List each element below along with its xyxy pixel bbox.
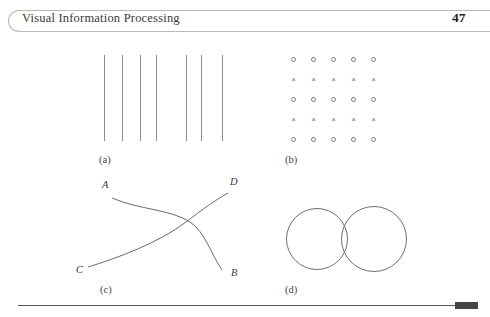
footer-block-marker xyxy=(455,302,478,309)
grid-circle xyxy=(351,137,356,142)
page-number: 47 xyxy=(452,10,466,26)
curve-endpoint-label-c: C xyxy=(76,264,83,275)
grid-circle xyxy=(291,57,296,62)
grid-cross: × xyxy=(290,116,297,123)
grid-circle xyxy=(311,57,316,62)
grid-cross: × xyxy=(370,116,377,123)
grid-circle xyxy=(371,97,376,102)
grid-circle xyxy=(331,97,336,102)
grid-circle xyxy=(331,137,336,142)
grid-circle xyxy=(311,97,316,102)
grid-cross: × xyxy=(330,116,337,123)
curve-endpoint-label-d: D xyxy=(230,176,238,187)
grid-cross: × xyxy=(310,76,317,83)
left-circle xyxy=(286,208,348,270)
vertical-line xyxy=(201,55,202,141)
vertical-line xyxy=(186,55,187,141)
panel-label-a: (a) xyxy=(99,154,111,165)
grid-circle xyxy=(351,57,356,62)
grid-cross: × xyxy=(350,116,357,123)
vertical-line xyxy=(140,55,141,141)
vertical-line xyxy=(122,55,123,141)
vertical-line xyxy=(156,55,157,141)
right-circle xyxy=(341,206,407,272)
footer-rule xyxy=(18,305,455,306)
page-title: Visual Information Processing xyxy=(22,11,180,26)
grid-cross: × xyxy=(350,76,357,83)
curve-endpoint-label-b: B xyxy=(231,267,237,278)
grid-circle xyxy=(291,97,296,102)
vertical-line xyxy=(104,55,105,141)
grid-circle xyxy=(331,57,336,62)
grid-cross: × xyxy=(370,76,377,83)
curve-c-to-d xyxy=(88,193,228,267)
grid-circle xyxy=(311,137,316,142)
panel-label-b: (b) xyxy=(285,154,297,165)
panel-c-crossing-curves xyxy=(0,36,490,294)
grid-cross: × xyxy=(330,76,337,83)
grid-circle xyxy=(371,57,376,62)
panel-label-c: (c) xyxy=(100,284,112,295)
panel-label-d: (d) xyxy=(285,284,297,295)
grid-cross: × xyxy=(310,116,317,123)
grid-circle xyxy=(371,137,376,142)
figure-area: (a) × × × × × × × × × × (b) xyxy=(0,36,490,294)
grid-cross: × xyxy=(290,76,297,83)
curve-endpoint-label-a: A xyxy=(102,179,108,190)
curve-a-to-b xyxy=(112,198,222,270)
vertical-line xyxy=(222,55,223,141)
grid-circle xyxy=(351,97,356,102)
grid-circle xyxy=(291,137,296,142)
